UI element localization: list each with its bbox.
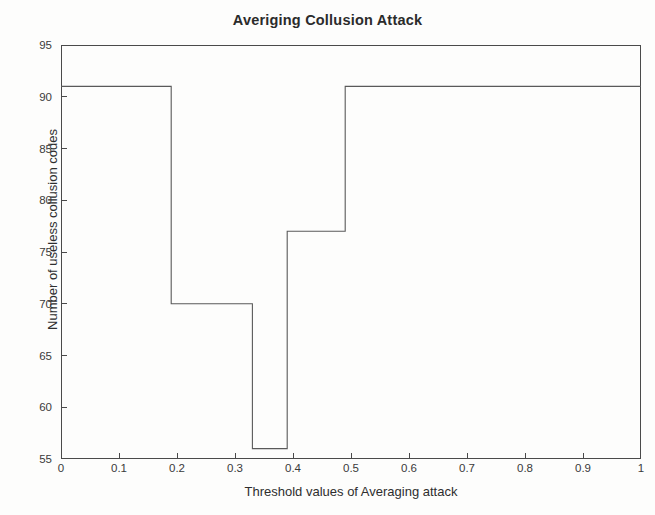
x-tick-label: 0.7 xyxy=(459,462,475,474)
y-tick-label: 95 xyxy=(39,39,52,51)
x-tick-label: 1 xyxy=(638,462,644,474)
y-tick-label: 65 xyxy=(39,350,52,362)
x-tick-mark xyxy=(177,453,178,459)
x-tick-label: 0.6 xyxy=(401,462,417,474)
x-tick-mark xyxy=(293,453,294,459)
y-tick-mark xyxy=(61,96,67,97)
y-tick-label: 90 xyxy=(39,91,52,103)
y-tick-label: 60 xyxy=(39,401,52,413)
y-tick-label: 85 xyxy=(39,143,52,155)
x-tick-mark xyxy=(351,453,352,459)
x-tick-label: 0.5 xyxy=(343,462,359,474)
chart-title: Averiging Collusion Attack xyxy=(0,12,655,28)
x-tick-label: 0.9 xyxy=(575,462,591,474)
y-axis-tick-labels: 556065707580859095 xyxy=(0,45,58,459)
y-tick-mark xyxy=(61,303,67,304)
y-tick-label: 75 xyxy=(39,246,52,258)
x-tick-mark xyxy=(235,453,236,459)
x-tick-label: 0.2 xyxy=(169,462,185,474)
y-tick-label: 80 xyxy=(39,194,52,206)
y-tick-mark xyxy=(61,407,67,408)
y-tick-label: 70 xyxy=(39,298,52,310)
x-tick-mark xyxy=(119,453,120,459)
y-tick-label: 55 xyxy=(39,453,52,465)
x-tick-label: 0.3 xyxy=(227,462,243,474)
x-tick-mark xyxy=(583,453,584,459)
y-tick-mark xyxy=(61,355,67,356)
x-tick-mark xyxy=(409,453,410,459)
y-tick-mark xyxy=(61,148,67,149)
step-plot-line xyxy=(61,45,641,459)
x-tick-mark xyxy=(525,453,526,459)
figure-canvas: Averiging Collusion Attack Number of use… xyxy=(0,0,655,515)
x-tick-label: 0.4 xyxy=(285,462,301,474)
y-tick-mark xyxy=(61,252,67,253)
x-tick-mark xyxy=(467,453,468,459)
plot-area xyxy=(61,45,641,459)
x-axis-tick-labels: 00.10.20.30.40.50.60.70.80.91 xyxy=(61,462,641,482)
x-axis-label: Threshold values of Averaging attack xyxy=(61,484,641,499)
x-tick-label: 0.1 xyxy=(111,462,127,474)
x-tick-label: 0.8 xyxy=(517,462,533,474)
x-tick-label: 0 xyxy=(58,462,64,474)
y-tick-mark xyxy=(61,200,67,201)
